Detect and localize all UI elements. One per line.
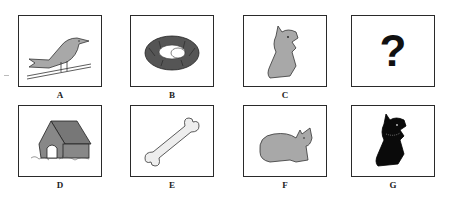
option-e-frame [130, 105, 214, 177]
black-dog-icon [352, 106, 434, 176]
margin-mark [4, 75, 9, 76]
option-c-label: C [243, 90, 327, 100]
answer-slot-label [351, 90, 435, 100]
option-f[interactable]: F [243, 105, 327, 190]
question-mark-icon: ? [352, 16, 434, 86]
option-g-frame [351, 105, 435, 177]
option-g[interactable]: G [351, 105, 435, 190]
gray-cat-icon [244, 106, 326, 176]
option-b-frame [130, 15, 214, 87]
bone-icon [131, 106, 213, 176]
bird-icon [19, 16, 101, 86]
option-g-label: G [351, 180, 435, 190]
option-f-label: F [243, 180, 327, 190]
option-e[interactable]: E [130, 105, 214, 190]
option-a-label: A [18, 90, 102, 100]
option-f-frame [243, 105, 327, 177]
option-b[interactable]: B [130, 15, 214, 100]
option-d[interactable]: D [18, 105, 102, 190]
option-c-frame [243, 15, 327, 87]
nest-icon [131, 16, 213, 86]
option-a-frame [18, 15, 102, 87]
option-c[interactable]: C [243, 15, 327, 100]
answer-slot[interactable]: ? [351, 15, 435, 100]
answer-slot-frame: ? [351, 15, 435, 87]
option-d-frame [18, 105, 102, 177]
gray-dog-icon [244, 16, 326, 86]
option-e-label: E [130, 180, 214, 190]
option-d-label: D [18, 180, 102, 190]
option-b-label: B [130, 90, 214, 100]
option-a[interactable]: A [18, 15, 102, 100]
doghouse-icon [19, 106, 101, 176]
